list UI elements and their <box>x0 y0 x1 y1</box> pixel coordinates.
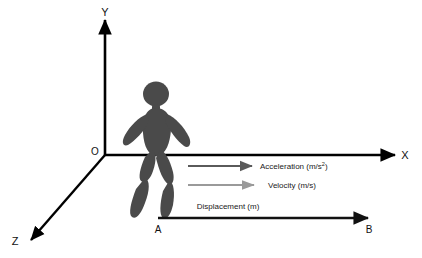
point-b-label: B <box>366 224 373 235</box>
person-right-lower-leg <box>160 181 174 218</box>
person-head <box>143 82 169 107</box>
acceleration-vector: Acceleration (m/s2) <box>188 161 328 171</box>
z-axis-label: Z <box>12 235 19 247</box>
point-a-label: A <box>155 224 162 235</box>
displacement-vector: Displacement (m) A B <box>155 202 373 235</box>
velocity-label: Velocity (m/s) <box>268 181 316 190</box>
walking-person-figure <box>123 82 190 219</box>
person-left-lower-leg <box>130 178 149 218</box>
x-axis-label: X <box>401 149 409 161</box>
acceleration-label-text: Acceleration (m/s <box>260 162 322 171</box>
z-axis-line <box>31 155 105 240</box>
acceleration-label: Acceleration (m/s2) <box>260 161 328 171</box>
origin-label: O <box>91 146 99 157</box>
y-axis-label: Y <box>101 6 109 18</box>
acceleration-label-tail: ) <box>325 162 328 171</box>
displacement-label: Displacement (m) <box>197 202 260 211</box>
diagram-canvas: Y X Z O Acceleratio <box>0 0 422 258</box>
velocity-vector: Velocity (m/s) <box>188 181 316 190</box>
physics-vector-diagram: Y X Z O Acceleratio <box>0 0 422 258</box>
